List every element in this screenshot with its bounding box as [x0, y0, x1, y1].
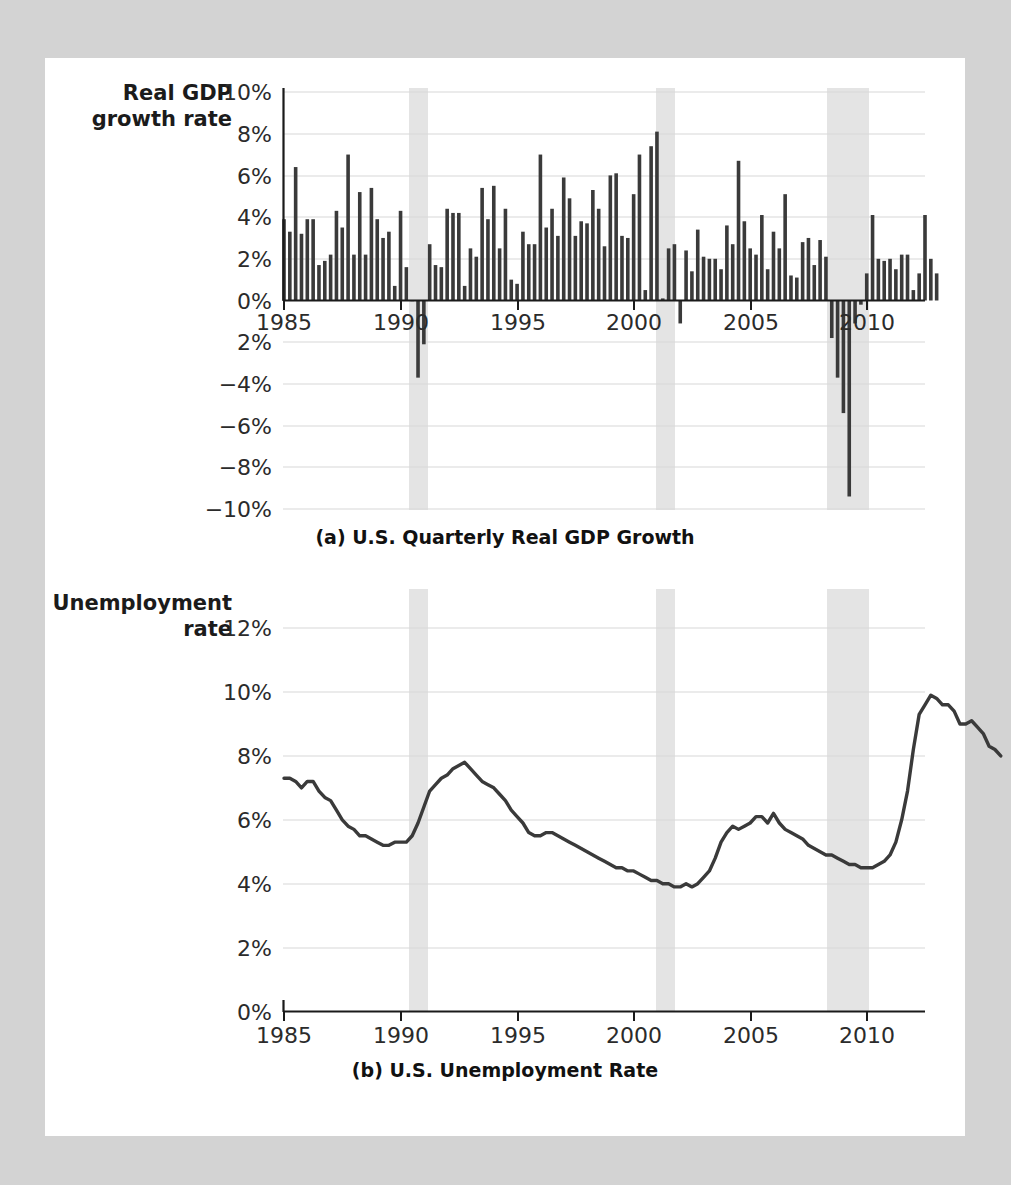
- gdp-bar: [871, 215, 875, 300]
- gdp-bar: [585, 223, 589, 300]
- gdp-bar: [335, 211, 339, 301]
- gdp-bar: [754, 255, 758, 301]
- gdp-bar: [352, 255, 356, 301]
- gdp-bar: [614, 173, 618, 300]
- panel-a-ytick-8: 8%: [237, 122, 272, 147]
- gdp-bar: [288, 232, 292, 301]
- gdp-bar: [568, 198, 572, 300]
- gdp-bar: [888, 259, 892, 301]
- gdp-bar: [667, 248, 671, 300]
- gdp-bar: [597, 209, 601, 301]
- panel-a-ytick-10: 10%: [223, 80, 272, 105]
- unemployment-rate-line: [284, 695, 1001, 887]
- gdp-bar: [801, 242, 805, 300]
- gdp-bar: [527, 244, 531, 300]
- gdp-bar: [340, 228, 344, 301]
- gdp-bar: [678, 301, 682, 324]
- gdp-bar: [556, 236, 560, 301]
- gdp-bar: [521, 232, 525, 301]
- panel-b-ytick-2: 2%: [237, 936, 272, 961]
- gdp-bar: [591, 190, 595, 301]
- gdp-bar: [544, 228, 548, 301]
- gdp-bar: [300, 234, 304, 301]
- gdp-bar: [748, 248, 752, 300]
- panel-b-ytick-8: 8%: [237, 744, 272, 769]
- gdp-bar: [480, 188, 484, 301]
- recession-band-1990: [409, 88, 428, 510]
- panel-a-xtick-1995: 1995: [490, 310, 546, 335]
- figure-container: Real GDP growth rate 10% 8% 6% 4% 2% 0% …: [0, 0, 1011, 1185]
- gdp-bar: [865, 273, 869, 300]
- gdp-bar: [649, 146, 653, 300]
- panel-a-xtick-1990: 1990: [373, 310, 429, 335]
- gdp-bar: [702, 257, 706, 301]
- gdp-bar: [708, 259, 712, 301]
- panel-b-caption: (b) U.S. Unemployment Rate: [352, 1059, 658, 1081]
- panel-a-xtick-2000: 2000: [606, 310, 662, 335]
- recession-band-2001: [656, 88, 675, 510]
- gdp-bar: [306, 219, 310, 300]
- gdp-bar: [719, 269, 723, 300]
- panel-b-xtick-1985: 1985: [256, 1023, 312, 1048]
- gdp-bar: [795, 278, 799, 301]
- gdp-bar: [329, 255, 333, 301]
- panel-b-ytick-6: 6%: [237, 808, 272, 833]
- gdp-bar: [434, 265, 438, 300]
- gdp-bar: [789, 275, 793, 300]
- gdp-bar: [562, 177, 566, 300]
- gdp-bar: [923, 215, 927, 300]
- gdp-bar: [475, 257, 479, 301]
- panel-a-xtick-2010: 2010: [839, 310, 895, 335]
- gdp-bar: [370, 188, 374, 301]
- gdp-bar: [346, 155, 350, 301]
- panel-a-ytick-6: 6%: [237, 164, 272, 189]
- gdp-bar: [766, 269, 770, 300]
- gdp-bar: [877, 259, 881, 301]
- gdp-bar: [393, 286, 397, 301]
- panel-b-x-ticks: [284, 1012, 867, 1021]
- panel-a-xtick-1985: 1985: [256, 310, 312, 335]
- gdp-bar: [323, 261, 327, 301]
- gdp-bar: [772, 232, 776, 301]
- gdp-bar: [743, 221, 747, 300]
- panel-b-ytick-12: 12%: [223, 616, 272, 641]
- panel-b-unemployment: Unemployment rate 12% 10% 8% 6% 4% 2% 0%…: [52, 589, 1000, 1081]
- gdp-bar: [387, 232, 391, 301]
- gdp-bar: [364, 255, 368, 301]
- gdp-bar: [451, 213, 455, 301]
- panel-a-ytick-2: 2%: [237, 247, 272, 272]
- gdp-bar: [818, 240, 822, 300]
- economics-figure: Real GDP growth rate 10% 8% 6% 4% 2% 0% …: [0, 0, 1011, 1185]
- gdp-bar: [696, 230, 700, 301]
- gdp-bar: [830, 301, 834, 339]
- panel-b-ytick-4: 4%: [237, 872, 272, 897]
- gdp-bar: [783, 194, 787, 300]
- gdp-bar: [539, 155, 543, 301]
- panel-a-ytick-neg8: −8%: [219, 455, 272, 480]
- gdp-bar: [760, 215, 764, 300]
- panel-b-xtick-2005: 2005: [723, 1023, 779, 1048]
- gdp-bar: [311, 219, 315, 300]
- panel-a-xtick-2005: 2005: [723, 310, 779, 335]
- gdp-bar: [504, 209, 508, 301]
- gdp-bar: [445, 209, 449, 301]
- gdp-bar: [492, 186, 496, 301]
- gdp-bar: [358, 192, 362, 300]
- gdp-bar: [673, 244, 677, 300]
- gdp-bar: [515, 284, 519, 301]
- panel-b-ytick-0: 0%: [237, 1000, 272, 1025]
- gdp-bar: [399, 211, 403, 301]
- panel-a-ytick-neg4: −4%: [219, 372, 272, 397]
- panel-a-y-axis-title-line1: Real GDP: [123, 81, 232, 105]
- gdp-bar: [690, 271, 694, 300]
- panel-b-y-axis-title-line1: Unemployment: [52, 591, 232, 615]
- gdp-bar: [917, 273, 921, 300]
- gdp-bar: [509, 280, 513, 301]
- gdp-bar: [317, 265, 321, 300]
- panel-a-ytick-4: 4%: [237, 205, 272, 230]
- panel-a-gdp: Real GDP growth rate 10% 8% 6% 4% 2% 0% …: [92, 80, 939, 548]
- gdp-bar: [935, 273, 939, 300]
- gdp-bar: [375, 219, 379, 300]
- panel-a-caption: (a) U.S. Quarterly Real GDP Growth: [315, 526, 694, 548]
- gdp-bar: [533, 244, 537, 300]
